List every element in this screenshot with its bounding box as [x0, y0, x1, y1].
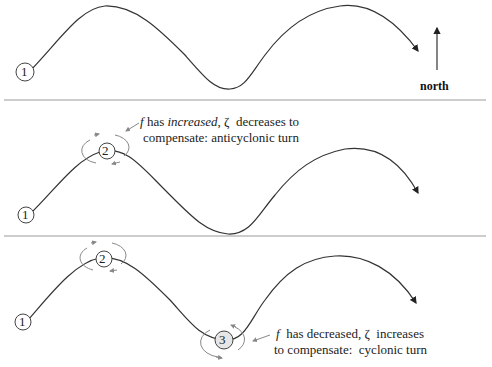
wave-path-middle	[30, 148, 418, 234]
marker-2-middle-label: 2	[102, 143, 109, 158]
diagram-canvas	[0, 0, 492, 367]
marker-1-middle-label: 1	[22, 207, 29, 222]
marker-3-bottom-label: 3	[219, 332, 226, 347]
marker-2-bottom-label: 2	[99, 251, 106, 266]
rotation-arrow-icon	[82, 140, 96, 163]
marker-1-bottom-label: 1	[19, 314, 26, 329]
pointer-arrow-middle	[126, 123, 139, 131]
wave-path-top	[30, 5, 418, 89]
annotation-middle-line2: compensate: anticyclonic turn	[143, 130, 299, 145]
marker-1-top-label: 1	[21, 64, 28, 79]
annotation-middle-line1: f has increased, ζ decreases to	[140, 114, 299, 129]
north-label: north	[420, 79, 449, 94]
pointer-arrow-bottom	[253, 335, 270, 341]
annotation-bottom-line1: f has decreased, ζ increases	[276, 326, 424, 341]
annotation-bottom-line2: to compensate: cyclonic turn	[274, 342, 427, 357]
